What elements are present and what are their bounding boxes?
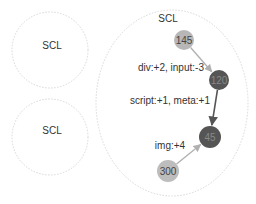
cluster-label: SCL (42, 125, 62, 136)
node-label: 120 (211, 75, 228, 86)
node-label: 145 (176, 35, 193, 46)
edge-line (212, 90, 218, 125)
edge-145-to-120: div:+2, input:-3 (138, 48, 212, 73)
edge-label: img:+4 (155, 140, 186, 151)
edge-300-to-45: img:+4 (155, 140, 201, 164)
edge-120-to-45: script:+1, meta:+1 (130, 90, 217, 125)
cluster-label: SCL (158, 13, 178, 24)
edge-label: div:+2, input:-3 (138, 62, 204, 73)
node-label: 45 (204, 132, 216, 143)
cluster-scl-left-top: SCL (12, 12, 88, 88)
cluster-label: SCL (42, 40, 62, 51)
node-145: 145 (174, 30, 194, 50)
scl-diagram: SCL SCL SCL div:+2, input:-3 script:+1, … (0, 0, 256, 204)
node-300: 300 (157, 160, 179, 182)
node-45: 45 (199, 126, 221, 148)
edge-label: script:+1, meta:+1 (130, 95, 210, 106)
cluster-scl-left-bottom: SCL (12, 99, 88, 175)
node-120: 120 (209, 70, 229, 90)
node-label: 300 (160, 166, 177, 177)
